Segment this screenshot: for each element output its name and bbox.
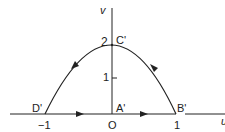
point-label-b: B' bbox=[177, 103, 186, 114]
contour-diagram: v 2 C' 1 D' A' B' −1 O 1 u bbox=[0, 0, 225, 132]
origin-label: O bbox=[108, 120, 117, 131]
arrow-base-right bbox=[140, 111, 148, 117]
arrow-base-left bbox=[76, 111, 84, 117]
tick-label-u-pos1: 1 bbox=[174, 120, 180, 131]
tick-label-u-neg1: −1 bbox=[38, 120, 51, 131]
apex-point bbox=[111, 44, 113, 46]
u-axis-label: u bbox=[221, 116, 225, 127]
tick-label-v1: 1 bbox=[103, 72, 109, 83]
point-label-a: A' bbox=[116, 103, 125, 114]
point-label-d: D' bbox=[32, 103, 42, 114]
point-label-c: C' bbox=[116, 35, 126, 46]
parabola-arc bbox=[45, 45, 176, 114]
tick-label-v2: 2 bbox=[101, 36, 108, 48]
v-axis-label: v bbox=[100, 5, 106, 16]
